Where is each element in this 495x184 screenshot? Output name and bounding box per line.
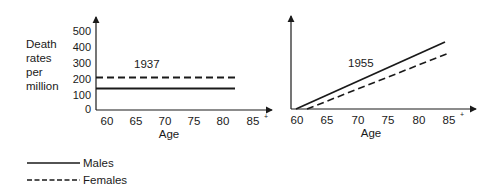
x-tick: 80 bbox=[217, 115, 230, 127]
year-label: 1955 bbox=[348, 57, 374, 69]
legend-label: Males bbox=[83, 157, 114, 169]
x-tick-labels: 60 65 70 75 80 85 bbox=[291, 114, 456, 126]
year-label: 1937 bbox=[134, 58, 160, 70]
y-tick: 500 bbox=[73, 25, 91, 37]
y-axis-title: Death rates per million bbox=[26, 38, 59, 92]
x-tick: 85 bbox=[247, 115, 260, 127]
chart-1937: Death rates per million 500 400 300 200 … bbox=[26, 17, 272, 140]
females-line bbox=[307, 53, 449, 109]
plus-superscript: + bbox=[460, 111, 464, 118]
x-tick: 65 bbox=[130, 115, 143, 127]
y-tick: 100 bbox=[73, 89, 91, 101]
y-title-line: million bbox=[26, 80, 59, 92]
y-tick: 400 bbox=[73, 41, 91, 53]
plus-superscript: + bbox=[264, 113, 268, 120]
x-tick: 80 bbox=[413, 114, 426, 126]
chart-1955: 1955 60 65 70 75 80 85 + Age bbox=[291, 16, 476, 139]
y-tick: 300 bbox=[73, 57, 91, 69]
y-tick: 0 bbox=[85, 103, 91, 115]
legend-item-females: Females bbox=[27, 174, 127, 184]
x-tick: 75 bbox=[382, 114, 395, 126]
legend-label: Females bbox=[83, 174, 127, 184]
males-line bbox=[296, 42, 445, 109]
legend-item-males: Males bbox=[27, 157, 114, 169]
x-axis-title: Age bbox=[159, 128, 179, 140]
y-title-line: Death bbox=[26, 38, 57, 50]
x-tick: 65 bbox=[321, 114, 334, 126]
y-tick: 200 bbox=[73, 73, 91, 85]
x-tick: 60 bbox=[101, 115, 114, 127]
x-tick: 70 bbox=[352, 114, 365, 126]
x-tick: 60 bbox=[291, 114, 304, 126]
y-title-line: rates bbox=[26, 52, 52, 64]
x-tick: 70 bbox=[159, 115, 172, 127]
y-tick-labels: 500 400 300 200 100 0 bbox=[73, 25, 91, 115]
legend: Males Females bbox=[27, 157, 127, 184]
x-tick-labels: 60 65 70 75 80 85 bbox=[101, 115, 260, 127]
x-tick: 85 bbox=[443, 114, 456, 126]
x-axis-title: Age bbox=[361, 127, 381, 139]
x-tick: 75 bbox=[188, 115, 201, 127]
y-title-line: per bbox=[26, 66, 43, 78]
chart-figure: Death rates per million 500 400 300 200 … bbox=[0, 0, 495, 184]
